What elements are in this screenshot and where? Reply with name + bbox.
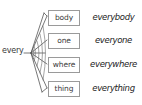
web-frame-upper-tip bbox=[44, 13, 47, 16]
suffix-label: thing bbox=[55, 85, 74, 93]
compound-word-everyone: everyone bbox=[85, 35, 142, 45]
web-thread-2 bbox=[37, 41, 39, 66]
suffix-box-where: where bbox=[48, 57, 80, 73]
suffix-box-body: body bbox=[48, 10, 80, 26]
web-frame-lower-tip bbox=[42, 88, 47, 92]
web-thread-3 bbox=[40, 34, 43, 73]
suffix-box-one: one bbox=[48, 33, 80, 49]
compound-word-everything: everything bbox=[85, 83, 142, 93]
suffix-label: where bbox=[53, 61, 76, 69]
compound-word-everybody: everybody bbox=[85, 12, 142, 22]
root-word-label: every bbox=[2, 46, 32, 56]
suffix-label: body bbox=[55, 14, 73, 22]
word-web-diagram: every body one where thing everybody eve… bbox=[0, 0, 142, 105]
suffix-box-thing: thing bbox=[48, 81, 80, 97]
suffix-label: one bbox=[57, 37, 71, 45]
compound-word-everywhere: everywhere bbox=[85, 59, 142, 69]
